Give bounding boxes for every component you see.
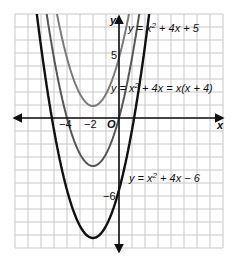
graph: x y O −4 −2 5 −6 y = x2 + 4x + 5 y = x2 … xyxy=(0,0,237,261)
label-lower-equation: y = x2 + 4x − 6 xyxy=(128,171,201,184)
y-tick-neg6: −6 xyxy=(103,190,116,202)
x-tick-neg4: −4 xyxy=(59,118,72,130)
x-axis-label: x xyxy=(216,119,224,131)
y-axis-label: y xyxy=(109,14,117,26)
label-upper-equation: y = x2 + 4x + 5 xyxy=(127,21,200,34)
x-tick-neg2: −2 xyxy=(84,118,97,130)
y-tick-5: 5 xyxy=(111,49,117,61)
label-middle-equation: y = x2 + 4x = x(x + 4) xyxy=(110,81,213,94)
origin-label: O xyxy=(107,118,116,130)
